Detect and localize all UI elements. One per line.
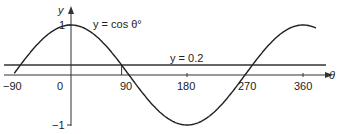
xtick-label-90: 90 <box>120 80 132 92</box>
y-axis-arrow-icon <box>68 6 74 14</box>
ytick-label-1: 1 <box>59 19 65 31</box>
xtick-label-270: 270 <box>238 80 256 92</box>
line-0.2-label: y = 0.2 <box>170 52 203 64</box>
cos-curve-label: y = cos θ° <box>93 18 142 30</box>
y-axis-label: y <box>57 4 65 16</box>
xtick-label-360: 360 <box>294 80 312 92</box>
xtick-label-neg90: −90 <box>3 80 22 92</box>
xtick-label-0: 0 <box>57 80 63 92</box>
x-axis-label: θ <box>329 69 335 81</box>
xtick-label-180: 180 <box>177 80 195 92</box>
cosine-chart: y θ y = cos θ° y = 0.2 1 −1 −90 0 90 180… <box>0 0 340 134</box>
ytick-label-neg1: −1 <box>52 119 65 131</box>
